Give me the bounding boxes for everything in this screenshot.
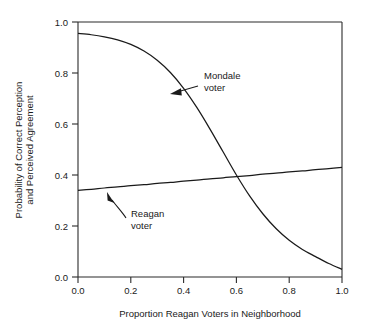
mondale-label-line2: voter (204, 82, 225, 93)
series-line-mondale (78, 33, 342, 269)
reagan-arrow-head (107, 192, 114, 203)
y-axis-title: Probability of Correct Perception and Pe… (13, 82, 35, 219)
annotation-reagan: Reagan voter (107, 192, 164, 231)
y-axis-title-line1: Probability of Correct Perception (13, 82, 24, 219)
y-tick-label-1: 0.2 (55, 221, 68, 232)
x-axis-ticks (78, 277, 342, 283)
reagan-label-line1: Reagan (131, 208, 164, 219)
y-tick-label-3: 0.6 (55, 119, 68, 130)
x-tick-label-2: 0.4 (177, 285, 190, 296)
y-tick-label-5: 1.0 (55, 17, 68, 28)
y-axis-tick-labels: 1.0 0.8 0.6 0.4 0.2 0.0 (55, 17, 68, 283)
chart-plot-svg: 1.0 0.8 0.6 0.4 0.2 0.0 0.0 0.2 0.4 0.6 … (0, 0, 365, 333)
annotation-mondale: Mondale voter (170, 70, 240, 96)
x-tick-label-1: 0.2 (124, 285, 137, 296)
mondale-arrow-head (170, 88, 182, 95)
y-tick-label-4: 0.8 (55, 68, 68, 79)
series-line-reagan (78, 167, 342, 190)
y-tick-label-0: 0.0 (55, 272, 68, 283)
x-axis-title: Proportion Reagan Voters in Neighborhood (119, 308, 301, 319)
y-axis-ticks (72, 22, 78, 277)
reagan-label-line2: voter (131, 220, 152, 231)
chart-figure: 1.0 0.8 0.6 0.4 0.2 0.0 0.0 0.2 0.4 0.6 … (0, 0, 365, 333)
mondale-label-line1: Mondale (204, 70, 240, 81)
x-axis-tick-labels: 0.0 0.2 0.4 0.6 0.8 1.0 (71, 285, 348, 296)
x-tick-label-3: 0.6 (230, 285, 243, 296)
y-axis-title-line2: and Perceived Agreement (24, 95, 35, 205)
axes-frame (78, 22, 342, 277)
x-tick-label-5: 1.0 (335, 285, 348, 296)
x-tick-label-0: 0.0 (71, 285, 84, 296)
x-tick-label-4: 0.8 (283, 285, 296, 296)
y-tick-label-2: 0.4 (55, 170, 68, 181)
